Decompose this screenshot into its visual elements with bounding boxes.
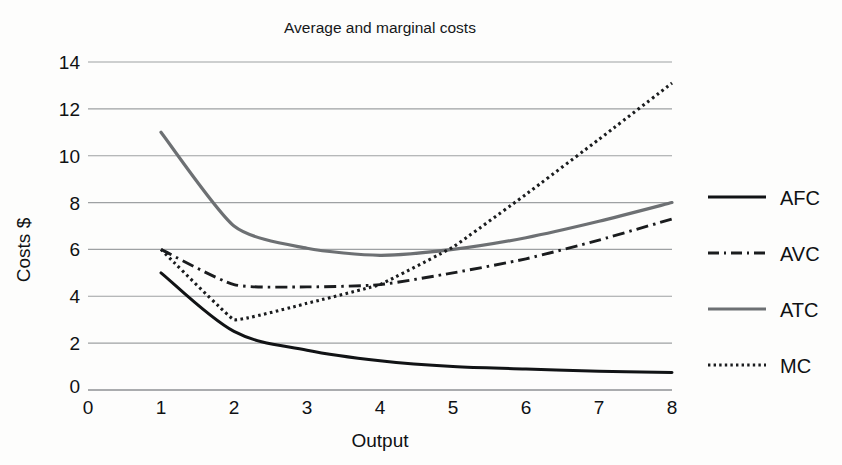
y-axis-title: Costs $: [13, 217, 34, 282]
y-tick-10: 10: [59, 146, 80, 167]
x-tick-7: 7: [594, 397, 605, 418]
cost-curves-chart: Average and marginal costs 14 12 10 8 6 …: [0, 0, 842, 465]
legend-label-avc: AVC: [780, 243, 820, 265]
x-tick-1: 1: [156, 397, 167, 418]
x-axis-title: Output: [351, 430, 409, 451]
y-tick-12: 12: [59, 99, 80, 120]
y-tick-6: 6: [69, 239, 80, 260]
y-tick-14: 14: [59, 52, 81, 73]
y-tick-8: 8: [69, 193, 80, 214]
x-tick-4: 4: [375, 397, 386, 418]
legend-label-atc: ATC: [780, 299, 819, 321]
x-tick-8: 8: [667, 397, 678, 418]
x-tick-6: 6: [521, 397, 532, 418]
chart-page: Average and marginal costs 14 12 10 8 6 …: [0, 0, 842, 465]
legend-label-afc: AFC: [780, 187, 820, 209]
y-tick-2: 2: [69, 333, 80, 354]
chart-background: [0, 0, 842, 465]
legend-label-mc: MC: [780, 355, 811, 377]
x-tick-3: 3: [302, 397, 313, 418]
x-tick-0: 0: [83, 397, 94, 418]
x-tick-2: 2: [229, 397, 240, 418]
chart-title: Average and marginal costs: [284, 19, 476, 36]
x-tick-5: 5: [448, 397, 459, 418]
y-tick-4: 4: [69, 286, 80, 307]
y-tick-0: 0: [69, 376, 80, 397]
